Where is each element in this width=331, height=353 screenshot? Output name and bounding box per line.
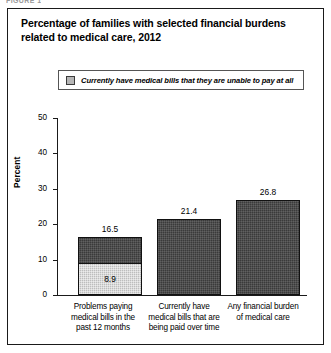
y-tick-40: 40 — [53, 153, 57, 154]
x-category-2-line-3: being paid over time — [136, 323, 232, 334]
y-tick-10: 10 — [53, 260, 57, 261]
x-category-3-line-2: of medical care — [214, 313, 312, 324]
bar-total-3[interactable] — [236, 200, 300, 295]
bar-total-label-2: 21.4 — [157, 206, 221, 216]
chart-title-line-2: related to medical care, 2012 — [21, 31, 311, 45]
bar-total-label-3: 26.8 — [236, 187, 300, 197]
legend-item-label: Currently have medical bills that they a… — [81, 76, 293, 85]
y-axis-line — [57, 118, 58, 296]
x-axis-line — [57, 295, 307, 296]
bar-sub-label-1: 8.9 — [79, 274, 141, 284]
chart-legend: Currently have medical bills that they a… — [58, 70, 304, 90]
legend-swatch-icon — [66, 76, 75, 85]
y-tick-label-30: 30 — [25, 183, 47, 194]
y-tick-0: 0 — [53, 295, 57, 296]
x-category-3-line-1: Any financial burden — [214, 302, 312, 313]
plot-area: 0 10 20 30 40 50 16.5 8.9 21.4 — [57, 118, 306, 295]
y-tick-label-50: 50 — [25, 112, 47, 123]
bar-total-2[interactable] — [157, 219, 221, 295]
bar-total-label-1: 16.5 — [78, 224, 142, 234]
y-axis-label: Percent — [12, 157, 22, 188]
chart-title-line-1: Percentage of families with selected fin… — [21, 17, 286, 29]
bar-subsegment-1[interactable]: 8.9 — [79, 263, 141, 295]
y-tick-50: 50 — [53, 118, 57, 119]
y-tick-label-20: 20 — [25, 218, 47, 229]
bar-total-1[interactable]: 8.9 — [78, 237, 142, 295]
y-tick-label-0: 0 — [25, 289, 47, 300]
figure-caption: FIGURE 1 — [6, 0, 41, 4]
y-tick-20: 20 — [53, 224, 57, 225]
figure-container: FIGURE 1 Percentage of families with sel… — [0, 0, 331, 353]
x-category-label-3: Any financial burden of medical care — [214, 302, 312, 323]
y-tick-label-10: 10 — [25, 254, 47, 265]
y-tick-label-40: 40 — [25, 147, 47, 158]
chart-title: Percentage of families with selected fin… — [21, 17, 311, 44]
y-tick-30: 30 — [53, 189, 57, 190]
